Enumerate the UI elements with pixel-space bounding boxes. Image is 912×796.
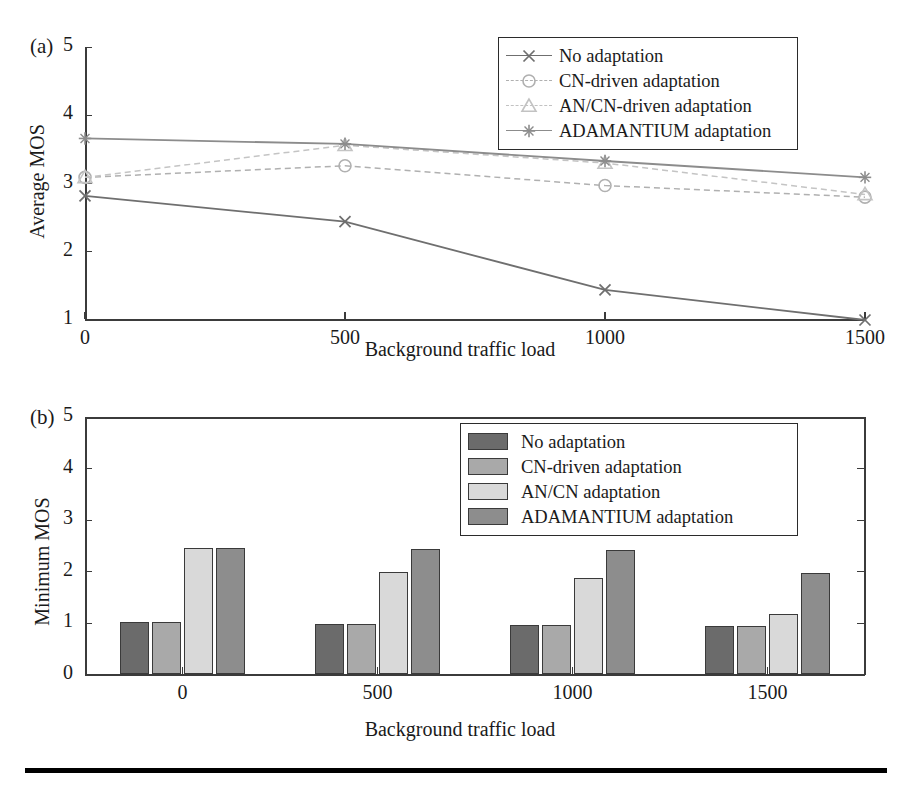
panel-a-legend-label: ADAMANTIUM adaptation — [559, 121, 771, 141]
circle-marker — [506, 71, 552, 91]
panel-b-legend-label: CN-driven adaptation — [521, 457, 682, 477]
legend-sample-star-marker — [506, 121, 552, 141]
bar — [216, 548, 245, 674]
panel-a-x-tick-label: 500 — [310, 326, 380, 349]
panel-b-x-tick — [572, 667, 573, 674]
panel-a-y-tick-label: 5 — [45, 33, 73, 56]
bar — [379, 572, 408, 674]
panel-b-x-tick — [767, 667, 768, 674]
bar — [737, 626, 766, 675]
legend-sample-x-marker — [506, 46, 552, 66]
panel-a-y-tick-label: 2 — [45, 238, 73, 261]
panel-b-y-tick — [85, 417, 92, 418]
panel-a-legend-item[interactable]: No adaptation — [506, 43, 788, 68]
panel-b-y-axis-right — [864, 417, 866, 675]
panel-b-legend-item[interactable]: CN-driven adaptation — [468, 454, 788, 479]
panel-b-legend: No adaptationCN-driven adaptationAN/CN a… — [460, 423, 798, 536]
bar — [769, 614, 798, 674]
panel-b-y-tick-right — [857, 571, 864, 572]
panel-b-legend-item[interactable]: No adaptation — [468, 429, 788, 454]
chart-panel-b: (b) Minimum MOS Background traffic load … — [0, 390, 912, 750]
panel-b-y-tick-label: 0 — [45, 661, 73, 684]
panel-b-y-tick-right — [857, 674, 864, 675]
bar — [411, 549, 440, 674]
bar — [152, 622, 181, 674]
bar — [574, 578, 603, 675]
panel-b-y-tick-label: 1 — [45, 609, 73, 632]
bar — [705, 626, 734, 675]
panel-a-y-tick-label: 3 — [45, 170, 73, 193]
legend-sample-circle-marker — [506, 71, 552, 91]
panel-a-x-tick-label: 1500 — [830, 326, 900, 349]
legend-swatch-wrap — [468, 457, 514, 477]
triangle-marker — [506, 96, 552, 116]
panel-b-x-tick-label: 1000 — [538, 681, 608, 704]
bar — [606, 550, 635, 674]
panel-b-top-spine — [85, 417, 865, 419]
panel-b-y-tick-right — [857, 417, 864, 418]
x-marker — [506, 46, 552, 66]
figure-container: (a) Average MOS Background traffic load … — [0, 0, 912, 796]
panel-b-y-tick-right — [857, 520, 864, 521]
panel-b-y-tick — [85, 468, 92, 469]
panel-a-x-tick-label: 0 — [50, 326, 120, 349]
panel-b-x-tick-label: 0 — [148, 681, 218, 704]
legend-sample-triangle-marker — [506, 96, 552, 116]
panel-b-x-tick — [377, 667, 378, 674]
bar — [315, 624, 344, 674]
panel-a-legend-item[interactable]: ADAMANTIUM adaptation — [506, 118, 788, 143]
panel-a-series-0 — [80, 190, 871, 325]
bar — [184, 548, 213, 674]
panel-a-y-tick-label: 4 — [45, 101, 73, 124]
panel-b-x-tick — [182, 667, 183, 674]
color-swatch — [468, 458, 508, 475]
panel-b-legend-label: No adaptation — [521, 432, 625, 452]
footer-rule — [25, 768, 887, 773]
panel-a-legend-item[interactable]: CN-driven adaptation — [506, 68, 788, 93]
panel-b-y-tick — [85, 623, 92, 624]
panel-b-x-axis — [85, 674, 865, 676]
panel-b-y-tick-label: 5 — [45, 403, 73, 426]
panel-b-y-tick-label: 2 — [45, 558, 73, 581]
color-swatch — [468, 483, 508, 500]
legend-swatch-wrap — [468, 432, 514, 452]
panel-a-x-tick-label: 1000 — [570, 326, 640, 349]
bar — [542, 625, 571, 674]
panel-b-y-tick-label: 3 — [45, 506, 73, 529]
panel-a-legend-item[interactable]: AN/CN-driven adaptation — [506, 93, 788, 118]
bar — [510, 625, 539, 675]
panel-b-y-tick-label: 4 — [45, 455, 73, 478]
panel-b-y-tick — [85, 674, 92, 675]
panel-b-legend-item[interactable]: ADAMANTIUM adaptation — [468, 504, 788, 529]
panel-b-y-tick-right — [857, 468, 864, 469]
panel-b-legend-label: ADAMANTIUM adaptation — [521, 507, 733, 527]
bar — [801, 573, 830, 674]
legend-swatch-wrap — [468, 482, 514, 502]
panel-b-y-tick-right — [857, 623, 864, 624]
bar — [120, 622, 149, 674]
panel-b-legend-label: AN/CN adaptation — [521, 482, 660, 502]
panel-b-x-tick-label: 1500 — [733, 681, 803, 704]
panel-b-legend-item[interactable]: AN/CN adaptation — [468, 479, 788, 504]
panel-b-y-tick — [85, 520, 92, 521]
panel-b-x-tick-label: 500 — [343, 681, 413, 704]
panel-b-y-axis — [85, 417, 87, 675]
panel-a-legend: No adaptationCN-driven adaptationAN/CN-d… — [498, 37, 798, 150]
color-swatch — [468, 508, 508, 525]
panel-a-legend-label: CN-driven adaptation — [559, 71, 720, 91]
panel-b-x-axis-label: Background traffic load — [330, 718, 590, 741]
star-marker — [506, 121, 552, 141]
panel-a-legend-label: AN/CN-driven adaptation — [559, 96, 752, 116]
panel-a-legend-label: No adaptation — [559, 46, 663, 66]
panel-b-y-tick — [85, 571, 92, 572]
bar — [347, 624, 376, 674]
color-swatch — [468, 433, 508, 450]
chart-panel-a: (a) Average MOS Background traffic load … — [0, 0, 912, 370]
legend-swatch-wrap — [468, 507, 514, 527]
